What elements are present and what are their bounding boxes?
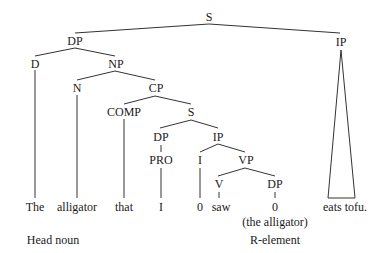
node-ip-top: IP xyxy=(336,36,347,48)
annotation-head-noun: Head noun xyxy=(27,234,79,246)
tree-branches xyxy=(0,0,377,253)
leaf-saw: saw xyxy=(212,201,231,213)
node-ip-inner: IP xyxy=(213,131,224,143)
leaf-i: I xyxy=(159,201,163,213)
node-n: N xyxy=(73,82,82,94)
node-d: D xyxy=(31,58,40,70)
leaf-the: The xyxy=(26,201,45,213)
node-cp: CP xyxy=(149,82,164,94)
node-pro: PRO xyxy=(149,154,172,166)
node-dp-top: DP xyxy=(67,35,82,47)
node-s-inner: S xyxy=(188,106,195,118)
leaf-eats-tofu: eats tofu. xyxy=(323,201,367,213)
syntax-tree-diagram: S DP IP D NP N CP COMP S DP IP PRO I VP … xyxy=(0,0,377,253)
leaf-that: that xyxy=(115,201,133,213)
node-i: I xyxy=(198,154,202,166)
leaf-zero-infl: 0 xyxy=(197,201,203,213)
node-np: NP xyxy=(108,58,123,70)
node-dp-obj: DP xyxy=(267,178,282,190)
annotation-r-element: R-element xyxy=(250,234,300,246)
node-comp: COMP xyxy=(107,106,141,118)
leaf-alligator: alligator xyxy=(57,201,97,213)
node-v: V xyxy=(215,178,224,190)
node-vp: VP xyxy=(238,154,253,166)
annotation-the-alligator: (the alligator) xyxy=(242,216,308,228)
leaf-zero-obj: 0 xyxy=(272,201,278,213)
node-s-root: S xyxy=(206,11,213,23)
node-dp-inner: DP xyxy=(153,131,168,143)
